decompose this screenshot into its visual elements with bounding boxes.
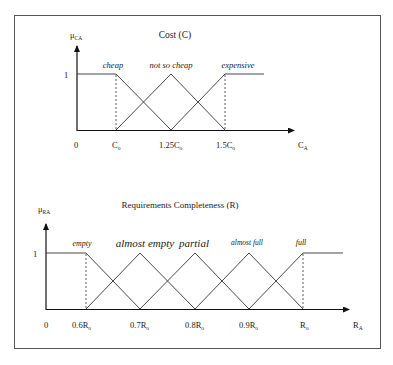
- cost-y-label: μCA: [70, 30, 82, 41]
- figure-border: [15, 16, 381, 349]
- cost-x-label: CA: [298, 140, 308, 151]
- req-x-tick-0.9r0: 0.9Ro: [239, 320, 258, 331]
- cost-x-tick-0: 0: [74, 140, 78, 150]
- cost-x-tick-c0: Co: [112, 140, 121, 151]
- req-x-tick-0.8r0: 0.8Ro: [185, 320, 204, 331]
- req-x-tick-0.6r0: 0.6Ro: [72, 320, 91, 331]
- empty-membership-line: [46, 253, 140, 309]
- partial-label: partial: [178, 237, 209, 249]
- requirements-chart: Requirements Completeness (R) μRA 1 empt…: [33, 200, 363, 331]
- req-x-tick-0.7r0: 0.7Ro: [130, 320, 149, 331]
- cost-title: Cost (C): [159, 30, 191, 41]
- req-y-tick-1: 1: [33, 249, 37, 259]
- not-so-cheap-label: not so cheap: [150, 60, 193, 70]
- cost-chart: Cost (C) μCA 1 cheap not so cheap expens…: [64, 30, 308, 151]
- cheap-label: cheap: [103, 60, 123, 70]
- almost-full-membership-line: [195, 253, 303, 309]
- empty-label: empty: [72, 239, 92, 248]
- req-x-tick-r0: Ro: [300, 320, 309, 331]
- cost-x-tick-1.25c0: 1.25Co: [159, 140, 183, 151]
- full-membership-line: [249, 253, 343, 309]
- partial-membership-line: [140, 253, 249, 309]
- cost-y-tick-1: 1: [64, 70, 68, 80]
- expensive-label: expensive: [221, 60, 254, 70]
- req-y-label: μRA: [38, 204, 50, 215]
- req-x-tick-0: 0: [44, 320, 48, 330]
- full-label: full: [296, 238, 307, 247]
- almost-empty-label: almost empty: [116, 237, 174, 249]
- almost-full-label: almost full: [231, 238, 263, 247]
- req-x-label: RA: [353, 320, 363, 331]
- not-so-cheap-membership-line: [116, 74, 225, 130]
- cost-x-tick-1.5c0: 1.5Co: [216, 140, 235, 151]
- fuzzy-membership-figure: Cost (C) μCA 1 cheap not so cheap expens…: [0, 0, 393, 365]
- req-title: Requirements Completeness (R): [122, 200, 239, 210]
- almost-empty-membership-line: [86, 253, 195, 309]
